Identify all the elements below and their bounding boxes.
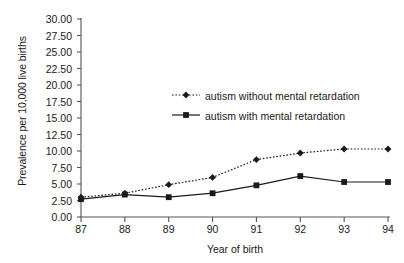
data-point-1-2	[166, 194, 172, 200]
data-point-0-4	[253, 156, 260, 163]
legend-marker-autism-with-mental-retardation	[183, 112, 189, 118]
legend-label-autism-without-mental-retardation: autism without mental retardation	[205, 90, 360, 102]
plot-area	[0, 0, 404, 263]
series-line-0	[81, 149, 388, 197]
data-point-0-7	[385, 146, 392, 153]
data-point-0-6	[341, 146, 348, 153]
data-point-1-0	[78, 196, 84, 202]
data-point-1-5	[297, 173, 303, 179]
legend-marker-autism-without-mental-retardation	[183, 92, 190, 99]
data-point-1-1	[122, 192, 128, 198]
data-point-1-7	[385, 179, 391, 185]
legend-label-autism-with-mental-retardation: autism with mental retardation	[205, 110, 345, 122]
data-point-0-2	[165, 181, 172, 188]
data-point-1-4	[254, 182, 260, 188]
data-point-1-6	[341, 179, 347, 185]
data-point-0-5	[297, 150, 304, 157]
prevalence-line-chart: Prevalence per 10,000 live births Year o…	[0, 0, 404, 263]
data-point-0-3	[209, 174, 216, 181]
data-point-1-3	[210, 190, 216, 196]
